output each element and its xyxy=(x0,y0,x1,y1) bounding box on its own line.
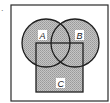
venn-svg: A B C xyxy=(0,0,110,103)
label-b: B xyxy=(77,31,83,41)
label-a: A xyxy=(39,31,46,41)
label-c: C xyxy=(58,79,65,89)
venn-diagram: . A B C xyxy=(0,0,110,103)
